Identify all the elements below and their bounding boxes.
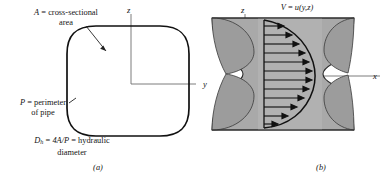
- hydraulic-diameter-formula: 4A/P: [52, 136, 69, 145]
- area-symbol: A: [34, 8, 39, 17]
- x-axis-label-b: x: [373, 71, 377, 81]
- hydraulic-diameter-label: Dh = 4A/P = hydraulic diameter: [14, 136, 130, 158]
- panel-b-graphics: [196, 0, 391, 182]
- panel-a-caption: (a): [78, 163, 118, 172]
- velocity-equals: =: [288, 3, 293, 12]
- perimeter-symbol: P: [20, 98, 25, 107]
- perimeter-text-2: of pipe: [31, 108, 55, 117]
- area-label: A = cross-sectional area: [18, 8, 114, 28]
- velocity-symbol: V: [281, 3, 286, 12]
- panel-b-caption: (b): [301, 163, 341, 172]
- panel-b: V = u(y,z) z x (b): [196, 0, 391, 182]
- velocity-label: V = u(y,z): [252, 3, 342, 13]
- area-text-2: area: [59, 18, 73, 27]
- axes-a: [131, 14, 196, 84]
- hydraulic-diameter-symbol: Dh: [34, 136, 43, 145]
- area-equals: =: [41, 8, 46, 17]
- duct-cross-section-outline: [67, 26, 189, 136]
- hydraulic-diameter-text: hydraulic: [78, 136, 110, 145]
- z-axis-label-a: z: [127, 5, 130, 15]
- hydraulic-diameter-equals-2: =: [71, 136, 76, 145]
- perimeter-text: perimeter: [34, 98, 66, 107]
- velocity-expression: u(y,z): [295, 3, 313, 12]
- area-text: cross-sectional: [48, 8, 98, 17]
- panel-a: A = cross-sectional area P = perimeter o…: [0, 0, 196, 182]
- z-axis-label-b: z: [241, 5, 244, 15]
- perimeter-equals: =: [27, 98, 32, 107]
- hydraulic-diameter-equals: =: [46, 136, 51, 145]
- figure-container: A = cross-sectional area P = perimeter o…: [0, 0, 391, 182]
- perimeter-label: P = perimeter of pipe: [2, 98, 84, 118]
- hydraulic-diameter-text-2: diameter: [57, 148, 86, 157]
- area-leader-arrow: [86, 26, 106, 51]
- hydraulic-diameter-subscript: h: [40, 138, 43, 145]
